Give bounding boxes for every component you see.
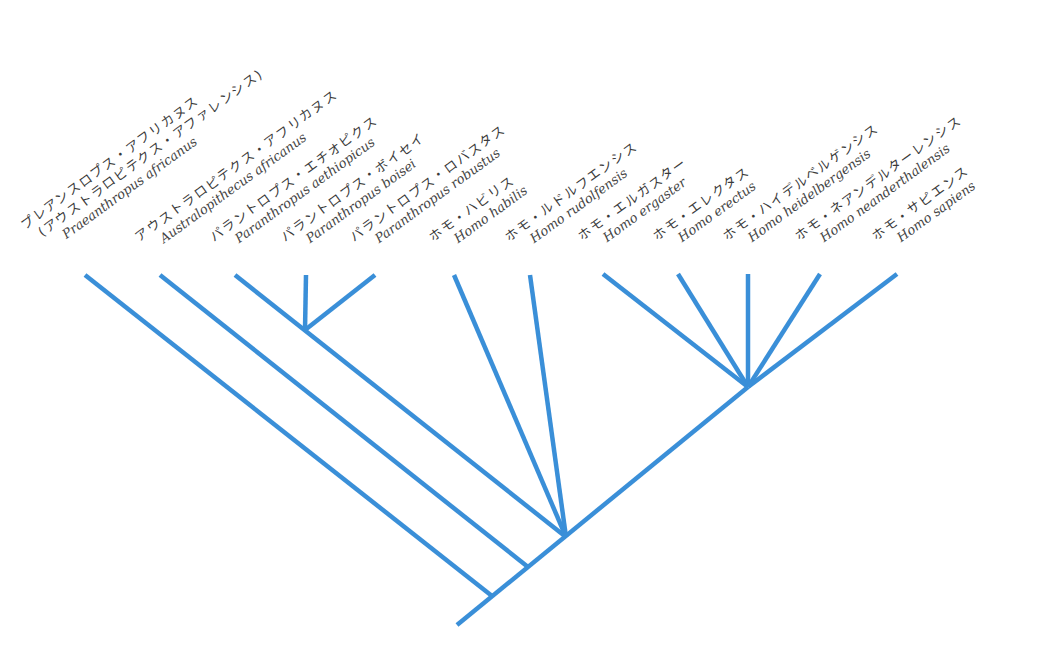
branch-p-boisei [305, 275, 306, 330]
cladogram-tree [0, 0, 1060, 661]
branch-h-erectus [678, 274, 748, 387]
branch-sapiens [748, 274, 897, 387]
branch-p-aethiopicus [235, 275, 566, 537]
branch-p-robustus [305, 275, 375, 330]
branch-h-ergaster [603, 274, 748, 387]
branch-root-stem [457, 387, 748, 625]
branch-h-neanderthalensis [748, 274, 820, 387]
branch-praeanthropus [85, 275, 492, 596]
